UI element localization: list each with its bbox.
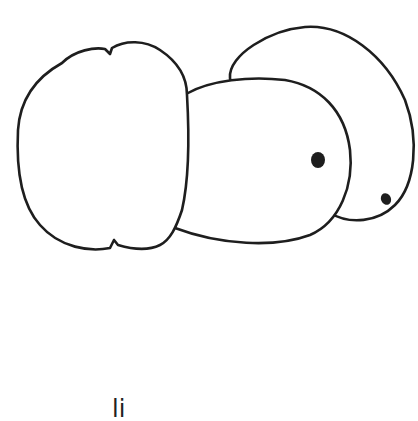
left-blob: [18, 42, 189, 249]
middle-blob-eye-dot: [311, 152, 325, 168]
cropped-caption-text: li: [112, 397, 125, 421]
